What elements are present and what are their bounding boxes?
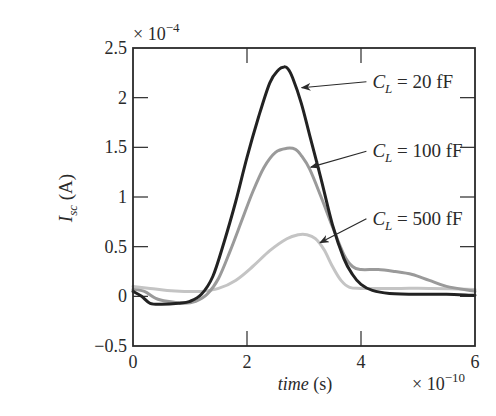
series-line [133, 234, 475, 291]
y-tick-label: 2 [118, 88, 127, 108]
x-tick-label: 6 [471, 352, 480, 372]
series-label: CL = 500 fF [372, 208, 462, 233]
plot-lines [133, 67, 475, 304]
y-multiplier: × 10−4 [133, 20, 180, 44]
y-tick-label: 2.5 [105, 38, 128, 58]
svg-text:× 10−10: × 10−10 [412, 370, 465, 394]
series-annotations: CL = 20 fFCL = 100 fFCL = 500 fF [302, 71, 463, 243]
x-tick-label: 0 [129, 352, 138, 372]
annotation-arrow [311, 151, 367, 167]
y-tick-label: 1 [118, 187, 127, 207]
y-tick-label: 0.5 [105, 237, 128, 257]
series-line [133, 67, 475, 304]
annotation-arrow [320, 219, 366, 243]
svg-text:× 10−4: × 10−4 [133, 20, 180, 44]
series-label: CL = 100 fF [372, 140, 462, 165]
svg-text:time (s): time (s) [278, 374, 333, 395]
y-tick-label: 1.5 [105, 137, 128, 157]
y-tick-label: −0.5 [94, 336, 127, 356]
svg-text:Isc (A): Isc (A) [55, 174, 80, 223]
y-axis-label: Isc (A) [55, 174, 80, 223]
y-tick-label: 0 [118, 286, 127, 306]
annotation-arrow [302, 82, 367, 88]
x-axis-label: time (s) [278, 374, 333, 395]
x-tick-label: 4 [357, 352, 366, 372]
series-label: CL = 20 fF [372, 71, 453, 96]
chart-figure: × 10−4 −0.500.511.522.5 0246 CL = 20 fFC… [0, 0, 496, 416]
x-multiplier: × 10−10 [412, 370, 465, 394]
x-tick-label: 2 [243, 352, 252, 372]
